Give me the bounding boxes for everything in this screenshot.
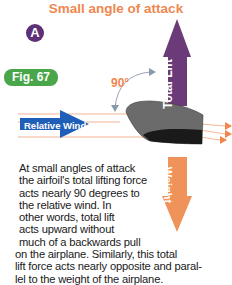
- caption-line: other words, total lift: [19, 211, 229, 223]
- caption: At small angles of attack the airfoil's …: [19, 162, 229, 285]
- airflow-arrowheads: [220, 122, 232, 144]
- relative-wind-label: Relative Wind: [24, 120, 86, 131]
- caption-line: on the airplane. Similarly, this total: [15, 248, 229, 260]
- angle-arrowhead-bottom: [111, 105, 119, 112]
- caption-line: lift force acts nearly opposite and para…: [15, 260, 229, 272]
- lift-label: Total Lift: [159, 49, 177, 119]
- caption-line: the airfoil's total lifting force: [19, 174, 229, 186]
- caption-line: lel to the weight of the airplane.: [15, 273, 229, 285]
- caption-line: much of a backwards pull: [19, 236, 229, 248]
- angle-label: 90°: [111, 76, 129, 90]
- caption-line: the relative wind. In: [19, 199, 229, 211]
- caption-line: acts nearly 90 degrees to: [19, 187, 229, 199]
- caption-line: acts upward without: [19, 223, 229, 235]
- angle-arrowhead-top: [149, 68, 156, 76]
- caption-line: At small angles of attack: [19, 162, 229, 174]
